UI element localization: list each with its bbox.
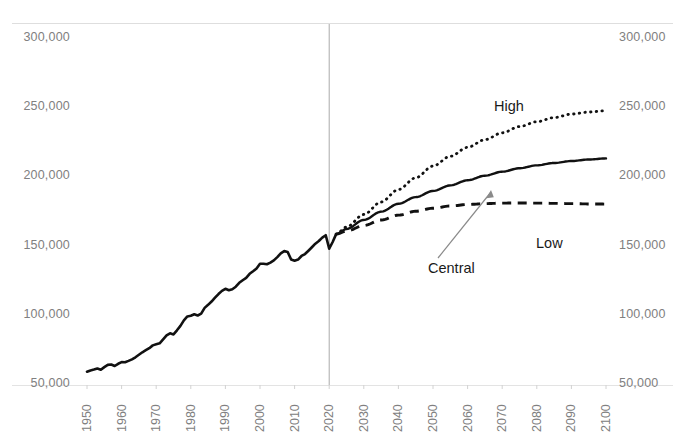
y-axis-left-tick-200000: 200,000 bbox=[8, 169, 70, 182]
chart-background bbox=[0, 0, 685, 441]
y-axis-left-tick-50000: 50,000 bbox=[8, 377, 70, 390]
y-axis-right-tick-150000: 150,000 bbox=[619, 239, 681, 252]
y-axis-left-tick-250000: 250,000 bbox=[8, 100, 70, 113]
y-axis-left-tick-300000: 300,000 bbox=[8, 31, 70, 44]
x-axis-tick-1960: 1960 bbox=[116, 404, 129, 432]
series-label-central: Central bbox=[428, 261, 475, 276]
y-axis-right-tick-50000: 50,000 bbox=[619, 377, 681, 390]
chart-container: 300,000250,000200,000150,000100,00050,00… bbox=[0, 0, 685, 441]
x-axis-tick-2070: 2070 bbox=[496, 404, 509, 432]
x-axis-tick-1980: 1980 bbox=[185, 404, 198, 432]
x-axis-tick-2050: 2050 bbox=[427, 404, 440, 432]
x-axis-tick-1950: 1950 bbox=[81, 404, 94, 432]
x-axis-tick-1990: 1990 bbox=[219, 404, 232, 432]
y-axis-right-tick-100000: 100,000 bbox=[619, 308, 681, 321]
y-axis-left-tick-150000: 150,000 bbox=[8, 239, 70, 252]
x-axis-tick-2100: 2100 bbox=[600, 404, 613, 432]
y-axis-left-tick-100000: 100,000 bbox=[8, 308, 70, 321]
x-axis-tick-2000: 2000 bbox=[254, 404, 267, 432]
y-axis-right-tick-250000: 250,000 bbox=[619, 100, 681, 113]
x-axis-tick-2060: 2060 bbox=[462, 404, 475, 432]
y-axis-right-tick-200000: 200,000 bbox=[619, 169, 681, 182]
chart-plot-area bbox=[0, 0, 685, 441]
x-axis-tick-2040: 2040 bbox=[392, 404, 405, 432]
x-axis-tick-2010: 2010 bbox=[289, 404, 302, 432]
x-axis-tick-2030: 2030 bbox=[358, 404, 371, 432]
x-axis-tick-2090: 2090 bbox=[565, 404, 578, 432]
x-axis-tick-1970: 1970 bbox=[150, 404, 163, 432]
series-label-low: Low bbox=[536, 236, 563, 251]
x-axis-tick-2080: 2080 bbox=[531, 404, 544, 432]
x-axis-tick-2020: 2020 bbox=[323, 404, 336, 432]
y-axis-right-tick-300000: 300,000 bbox=[619, 31, 681, 44]
series-label-high: High bbox=[494, 99, 524, 114]
